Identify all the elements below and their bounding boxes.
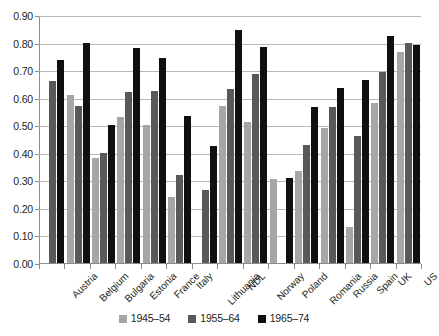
bar-group: [40, 16, 65, 263]
bar: [176, 175, 183, 263]
x-axis-tick-label: Spain: [374, 270, 400, 296]
bar-group: [91, 16, 116, 263]
legend-item: 1945–54: [119, 313, 170, 324]
legend-item: 1965–74: [258, 313, 309, 324]
legend-swatch: [188, 315, 196, 323]
legend-swatch: [119, 315, 127, 323]
bar-group: [192, 16, 217, 263]
bar: [379, 72, 386, 264]
bar: [387, 36, 394, 263]
bar: [235, 30, 242, 263]
y-axis-tick-label: 0.00: [13, 259, 33, 270]
legend-item: 1955–64: [188, 313, 239, 324]
bar: [83, 43, 90, 263]
bar: [108, 125, 115, 263]
x-axis-tick-label: US: [422, 270, 439, 288]
bar-group: [65, 16, 90, 263]
bar: [67, 95, 74, 263]
y-axis-tick-label: 0.90: [13, 11, 33, 22]
bar: [49, 81, 56, 263]
bar: [75, 106, 82, 263]
bar-group: [370, 16, 395, 263]
x-axis-tick-label: Norway: [275, 270, 307, 302]
x-axis-tick-label: UK: [396, 270, 414, 288]
bar-groups: [40, 16, 421, 263]
bar: [184, 116, 191, 263]
bar: [413, 45, 420, 263]
legend: 1945–541955–641965–74: [0, 313, 428, 324]
bar: [252, 74, 259, 263]
bar: [125, 92, 132, 263]
bar: [151, 91, 158, 263]
bar: [210, 146, 217, 263]
y-axis-tick-label: 0.70: [13, 66, 33, 77]
bar-group: [396, 16, 421, 263]
bar: [270, 179, 277, 263]
bar: [303, 145, 310, 263]
bar: [362, 80, 369, 263]
y-axis-tick-label: 0.50: [13, 121, 33, 132]
bar-group: [218, 16, 243, 263]
legend-swatch: [258, 315, 266, 323]
plot-area: [39, 16, 421, 264]
bar: [346, 227, 353, 263]
bar: [143, 125, 150, 263]
bar: [260, 47, 267, 263]
bar: [329, 107, 336, 263]
bar-group: [116, 16, 141, 263]
y-axis-tick-label: 0.60: [13, 93, 33, 104]
bar: [202, 190, 209, 263]
y-axis-tick-label: 0.40: [13, 148, 33, 159]
y-axis: 0.900.800.700.600.500.400.300.200.100.00: [0, 16, 39, 264]
bar: [100, 153, 107, 263]
legend-label: 1955–64: [200, 313, 239, 324]
bar-group: [142, 16, 167, 263]
bar: [337, 88, 344, 263]
bar: [227, 89, 234, 263]
legend-label: 1945–54: [131, 313, 170, 324]
bar-group: [294, 16, 319, 263]
bar-group: [345, 16, 370, 263]
x-axis-tick: [421, 264, 422, 269]
bar: [295, 171, 302, 263]
bar-group: [167, 16, 192, 263]
bar-group: [269, 16, 294, 263]
bar: [117, 117, 124, 263]
bar: [321, 128, 328, 263]
bar: [219, 106, 226, 263]
y-axis-tick-label: 0.10: [13, 231, 33, 242]
y-axis-tick-label: 0.30: [13, 176, 33, 187]
bar: [57, 60, 64, 263]
bar: [159, 58, 166, 263]
x-axis-tick-label: Austria: [70, 270, 100, 300]
bar: [286, 178, 293, 263]
bar: [397, 52, 404, 263]
legend-label: 1965–74: [270, 313, 309, 324]
bar: [92, 158, 99, 263]
bar: [371, 103, 378, 263]
bar: [168, 197, 175, 263]
y-axis-tick-label: 0.80: [13, 38, 33, 49]
bar: [354, 136, 361, 263]
bar-group: [319, 16, 344, 263]
y-axis-tick-label: 0.20: [13, 203, 33, 214]
bar: [311, 107, 318, 263]
bar: [405, 43, 412, 263]
x-axis-labels: AustriaBelgiumBulgariaEstoniaFranceItaly…: [39, 266, 421, 312]
bar: [133, 48, 140, 263]
bar-group: [243, 16, 268, 263]
bar: [244, 122, 251, 263]
